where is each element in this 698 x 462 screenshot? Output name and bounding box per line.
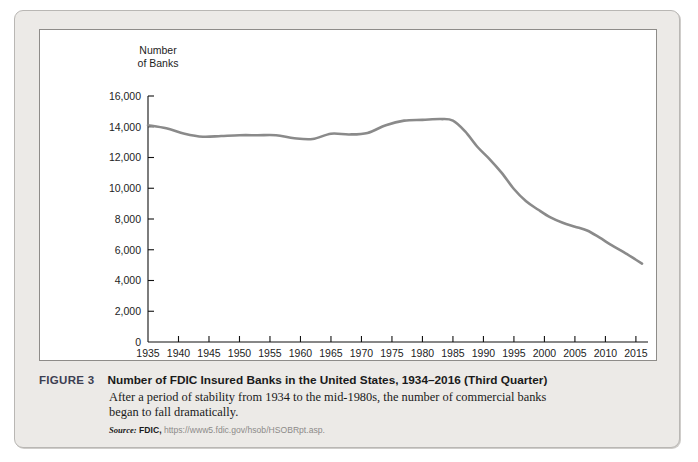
source-label: Source: [109, 425, 137, 435]
figure-source: Source: FDIC, https://www5.fdic.gov/hsob… [109, 425, 659, 435]
y-axis-tick-label: 16,000 [109, 90, 141, 102]
x-axis-tick-label: 2010 [594, 347, 618, 359]
x-axis-tick-label: 1955 [258, 347, 282, 359]
x-axis-tick-label: 1980 [411, 347, 435, 359]
x-axis-tick-label: 1990 [472, 347, 496, 359]
x-axis-tick-label: 1945 [197, 347, 221, 359]
x-axis-tick-label: 1970 [350, 347, 374, 359]
x-axis-tick-label: 1950 [228, 347, 252, 359]
figure-card: Numberof Banks02,0004,0006,0008,00010,00… [14, 10, 680, 448]
figure-number-label: FIGURE 3 [39, 374, 107, 386]
y-axis-tick-label: 6,000 [115, 244, 141, 256]
x-axis-tick-label: 2015 [624, 347, 648, 359]
y-axis-tick-label: 14,000 [109, 121, 141, 133]
y-axis-title-line: of Banks [138, 57, 179, 69]
y-axis-title-line: Number [139, 44, 177, 56]
x-axis-tick-label: 1985 [441, 347, 465, 359]
figure-title: Number of FDIC Insured Banks in the Unit… [107, 373, 547, 387]
source-organization: FDIC, [139, 425, 161, 435]
bank-count-line-chart: Numberof Banks02,0004,0006,0008,00010,00… [40, 30, 656, 360]
x-axis-tick-label: 1995 [502, 347, 526, 359]
chart-plot-panel: Numberof Banks02,0004,0006,0008,00010,00… [39, 29, 657, 361]
y-axis-tick-label: 8,000 [115, 213, 141, 225]
y-axis-tick-label: 12,000 [109, 151, 141, 163]
x-axis-tick-label: 2005 [563, 347, 587, 359]
figure-description: After a period of stability from 1934 to… [109, 390, 549, 420]
x-axis-tick-label: 2000 [533, 347, 557, 359]
y-axis-tick-label: 4,000 [115, 274, 141, 286]
data-series-line [148, 119, 642, 264]
x-axis-tick-label: 1975 [380, 347, 404, 359]
y-axis-tick-label: 10,000 [109, 182, 141, 194]
y-axis-tick-label: 2,000 [115, 305, 141, 317]
x-axis-tick-label: 1965 [319, 347, 343, 359]
caption-heading-row: FIGURE 3 Number of FDIC Insured Banks in… [39, 373, 659, 387]
x-axis-tick-label: 1960 [289, 347, 313, 359]
figure-caption: FIGURE 3 Number of FDIC Insured Banks in… [39, 373, 659, 435]
source-url: https://www5.fdic.gov/hsob/HSOBRpt.asp. [164, 425, 325, 435]
x-axis-tick-label: 1940 [167, 347, 191, 359]
y-axis-tick-label: 0 [135, 336, 141, 348]
caption-body: After a period of stability from 1934 to… [109, 390, 659, 435]
x-axis-tick-label: 1935 [136, 347, 160, 359]
